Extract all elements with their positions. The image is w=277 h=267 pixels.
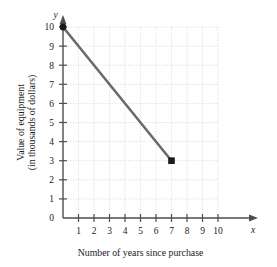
y-tick-label: 2 <box>49 175 54 185</box>
x-tick-label: 7 <box>169 226 174 236</box>
y-tick-label: 4 <box>49 137 54 147</box>
origin-label: 0 <box>49 213 54 223</box>
y-tick-label: 1 <box>49 194 54 204</box>
chart-figure: 1 2 3 4 5 6 7 8 9 10 10 9 8 7 6 5 4 3 2 … <box>0 0 277 267</box>
x-tick-label: 2 <box>92 226 97 236</box>
x-tick-label: 4 <box>123 226 128 236</box>
y-axis-title: Value of equipment (in thousands of doll… <box>15 75 38 171</box>
y-axis-title-line2: (in thousands of dollars) <box>26 75 38 171</box>
x-tick-label: 1 <box>76 226 81 236</box>
x-axis-variable-label: x <box>250 225 256 235</box>
x-tick-label: 3 <box>107 226 112 236</box>
x-tick-label: 5 <box>138 226 143 236</box>
x-tick-label: 8 <box>185 226 190 236</box>
x-axis-title: Number of years since purchase <box>78 247 204 258</box>
y-tick-label: 9 <box>49 42 54 52</box>
y-tick-label: 10 <box>45 22 55 32</box>
y-tick-label: 5 <box>49 118 54 128</box>
data-point-start <box>60 24 67 31</box>
x-tick-label: 6 <box>154 226 159 236</box>
x-tick-label: 10 <box>213 226 223 236</box>
y-axis-title-line1: Value of equipment <box>15 84 26 161</box>
y-tick-label: 3 <box>49 156 54 166</box>
y-tick-label: 8 <box>49 61 54 71</box>
data-point-end <box>168 157 175 164</box>
y-tick-label: 6 <box>49 99 54 109</box>
y-axis-variable-label: y <box>52 10 58 20</box>
x-tick-label: 9 <box>200 226 205 236</box>
y-tick-label: 7 <box>49 80 54 90</box>
